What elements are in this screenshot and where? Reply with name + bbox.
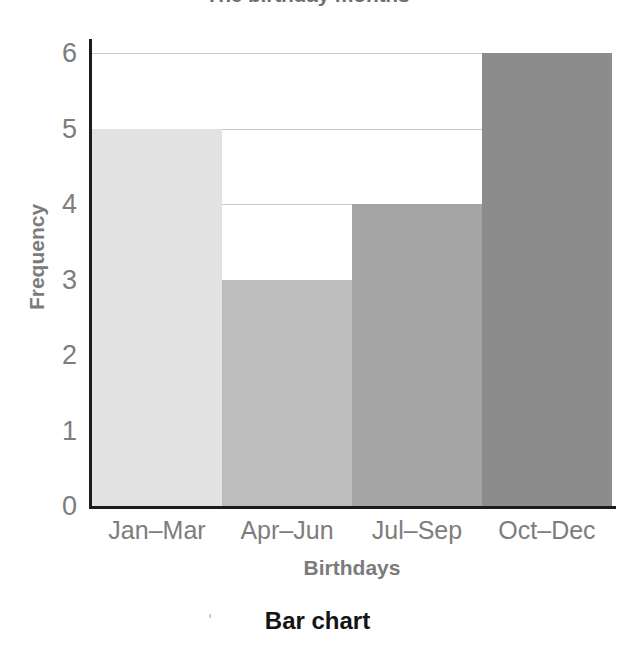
bar-chart-figure: 6543210 Frequency Jan–MarApr–JunJul–SepO… [0, 0, 621, 654]
y-axis-tick-label: 1 [0, 417, 89, 444]
bar [92, 129, 222, 507]
bar-series [92, 53, 612, 506]
bar [352, 204, 482, 506]
x-axis-tick-label: Jan–Mar [92, 515, 222, 545]
x-axis-tick-label: Apr–Jun [222, 515, 352, 545]
y-axis-tick-label: 6 [0, 40, 89, 67]
bar [482, 53, 612, 506]
x-axis-tick-label: Jul–Sep [352, 515, 482, 545]
plot-area [92, 53, 612, 506]
x-axis-title: Birthdays [92, 556, 612, 580]
y-axis-tick-label: 5 [0, 115, 89, 142]
x-axis-tick-label: Oct–Dec [482, 515, 612, 545]
y-axis-tick-label: 0 [0, 493, 89, 520]
figure-caption: Bar chart [0, 607, 621, 635]
x-axis-line [89, 506, 616, 509]
x-axis-tick-labels: Jan–MarApr–JunJul–SepOct–Dec [92, 515, 612, 545]
bar [222, 280, 352, 507]
y-axis-line [89, 39, 92, 509]
y-axis-title: Frequency [25, 157, 49, 357]
